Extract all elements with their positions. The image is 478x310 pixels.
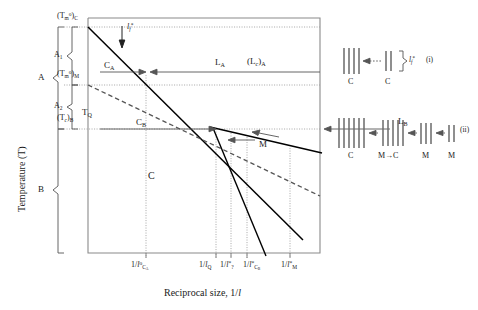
stack-i-1 [344, 48, 359, 74]
left-braces [53, 27, 78, 253]
figure-root: Temperature (T) Reciprocal size, 1/l (Tm… [0, 0, 478, 310]
xtick-label-lstar-CB: 1/l*CB [243, 261, 260, 272]
arrow-tp-1 [259, 133, 279, 137]
label-TQ: TQ [82, 108, 92, 118]
line-M-mesophase [88, 85, 320, 196]
brace-label-B: B [38, 185, 44, 194]
label-lf-top: lf* [127, 23, 133, 32]
stack-i-2-label: C [385, 78, 390, 86]
stack-ii-1 [339, 118, 364, 148]
figure-canvas [0, 0, 478, 310]
xtick-label-lstar-M: 1/l*M [281, 261, 297, 270]
label-Tc-B: (Tc)B [57, 114, 73, 123]
label-CA: CA [104, 61, 114, 71]
schematic-ii-roman: (ii) [460, 126, 469, 134]
arrow-LA-head [150, 69, 157, 75]
x-tick-marks [146, 253, 290, 258]
brace-label-A2: A2 [54, 102, 63, 111]
region-label-C: C [148, 171, 155, 181]
label-LcA: (Lc)A [247, 57, 266, 67]
arrow-tp-1-head [252, 130, 260, 136]
schematic-i [344, 48, 407, 74]
lf-top-arrow [119, 26, 125, 48]
schematic-ii [339, 118, 454, 148]
lf-arrow-head [119, 40, 125, 48]
brace-label-A1: A1 [54, 51, 63, 60]
label-Tm0-M: (Tmo)M [57, 70, 79, 79]
y-axis-label: Temperature (T) [16, 146, 27, 212]
stack-i-1-label: C [348, 78, 353, 86]
arrow-M-head [228, 137, 235, 143]
stack-ii-4-label: M [448, 152, 455, 160]
stack-ii-1-label: C [348, 152, 353, 160]
stack-i-2 [386, 51, 391, 71]
stack-ii-3 [421, 123, 431, 144]
arrow-CA-head [139, 69, 146, 75]
brace-B-path [53, 129, 64, 253]
xtick-label-lQ: 1/lQ [199, 261, 211, 270]
stack-ii-3-label: M [422, 152, 429, 160]
schematic-i-brace-label: lf* [409, 56, 415, 65]
stack-ii-2-label: M→C [378, 152, 398, 160]
arrow-i-transform [363, 58, 381, 64]
xtick-label-lstar: 1/l*? [220, 261, 234, 270]
xtick-label-lc0-A: 1/loCA [131, 261, 149, 272]
label-LB: LB [398, 117, 408, 127]
annotation-arrows [100, 69, 390, 143]
brace-label-A: A [38, 73, 45, 82]
arrow-LB-head [324, 126, 331, 132]
plot-frame [88, 18, 320, 253]
vertical-guides [146, 75, 290, 258]
stack-ii-4 [449, 125, 454, 142]
x-axis-label: Reciprocal size, 1/l [164, 288, 241, 298]
brace-i [399, 51, 407, 71]
data-lines [88, 27, 322, 256]
label-Tm0-C: (Tmo)C [57, 12, 78, 21]
schematic-i-roman: (i) [426, 56, 433, 64]
line-C-melting [88, 27, 303, 240]
region-label-M: M [259, 140, 267, 149]
arrows-ii [369, 130, 445, 135]
label-LA: LA [215, 58, 225, 68]
label-CB: CB [136, 118, 146, 128]
